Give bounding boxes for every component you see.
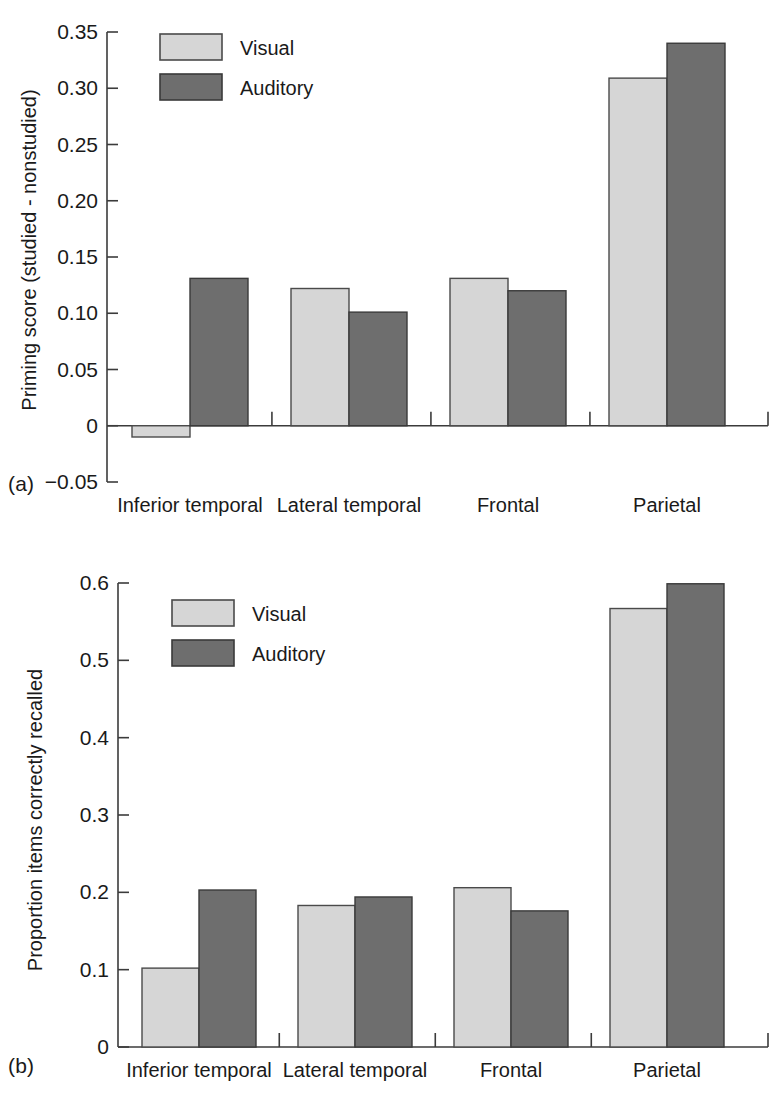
legend-label-visual: Visual <box>252 603 306 625</box>
bar-visual <box>454 888 511 1047</box>
y-tick-label: 0.15 <box>57 245 98 268</box>
legend-label-auditory: Auditory <box>252 643 325 665</box>
y-tick-label: 0.1 <box>80 958 109 981</box>
bar-visual <box>291 289 349 426</box>
chart-panel-a: −0.0500.050.100.150.200.250.300.35Inferi… <box>0 0 782 540</box>
y-tick-label: 0.3 <box>80 803 109 826</box>
bar-auditory <box>667 43 725 426</box>
y-tick-label: −0.05 <box>45 470 98 493</box>
y-tick-label: 0.30 <box>57 76 98 99</box>
x-category-label: Lateral temporal <box>277 494 422 516</box>
y-tick-label: 0.25 <box>57 133 98 156</box>
proportion-recalled-bar-chart: 00.10.20.30.40.50.6Inferior temporalLate… <box>0 540 782 1096</box>
bar-visual <box>132 426 190 437</box>
y-tick-label: 0 <box>97 1035 109 1058</box>
y-tick-label: 0.2 <box>80 880 109 903</box>
panel-a-tag: (a) <box>8 472 34 496</box>
y-tick-label: 0.4 <box>80 726 110 749</box>
x-category-label: Parietal <box>633 494 701 516</box>
bar-visual <box>298 905 355 1047</box>
bar-auditory <box>667 584 724 1047</box>
bar-auditory <box>355 897 412 1047</box>
legend-label-visual: Visual <box>240 37 294 59</box>
bar-visual <box>142 968 199 1047</box>
legend-swatch-auditory <box>160 74 222 100</box>
panel-b-tag: (b) <box>8 1054 34 1078</box>
y-axis-title: Priming score (studied - nonstudied) <box>18 89 40 410</box>
bar-auditory <box>511 911 568 1047</box>
legend-label-auditory: Auditory <box>240 77 313 99</box>
x-category-label: Inferior temporal <box>126 1059 272 1081</box>
bar-auditory <box>508 291 566 426</box>
legend-swatch-visual <box>160 34 222 60</box>
bar-visual <box>610 609 667 1047</box>
bar-auditory <box>199 890 256 1047</box>
y-tick-label: 0.10 <box>57 301 98 324</box>
bar-visual <box>609 78 667 426</box>
priming-score-bar-chart: −0.0500.050.100.150.200.250.300.35Inferi… <box>0 0 782 540</box>
y-tick-label: 0 <box>86 414 98 437</box>
figure-container: −0.0500.050.100.150.200.250.300.35Inferi… <box>0 0 782 1096</box>
bar-visual <box>450 278 508 425</box>
y-tick-label: 0.35 <box>57 20 98 43</box>
x-category-label: Lateral temporal <box>283 1059 428 1081</box>
bar-auditory <box>190 278 248 425</box>
bar-auditory <box>349 312 407 426</box>
legend-swatch-auditory <box>172 640 234 666</box>
x-category-label: Frontal <box>477 494 539 516</box>
y-tick-label: 0.20 <box>57 189 98 212</box>
chart-panel-b: 00.10.20.30.40.50.6Inferior temporalLate… <box>0 540 782 1096</box>
x-category-label: Frontal <box>480 1059 542 1081</box>
legend-swatch-visual <box>172 600 234 626</box>
y-tick-label: 0.05 <box>57 358 98 381</box>
x-category-label: Inferior temporal <box>117 494 263 516</box>
y-tick-label: 0.6 <box>80 571 109 594</box>
x-category-label: Parietal <box>633 1059 701 1081</box>
y-tick-label: 0.5 <box>80 648 109 671</box>
y-axis-title: Proportion items correctly recalled <box>24 669 46 971</box>
